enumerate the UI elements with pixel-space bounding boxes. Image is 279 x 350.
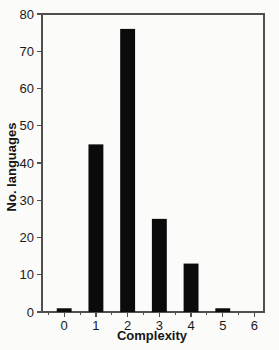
- bar: [184, 264, 199, 312]
- y-tick-label: 70: [20, 44, 34, 59]
- y-tick-label: 60: [20, 81, 34, 96]
- y-tick-label: 30: [20, 193, 34, 208]
- x-tick-label: 6: [251, 318, 258, 333]
- bar: [57, 308, 72, 312]
- y-tick-label: 40: [20, 156, 34, 171]
- x-axis-title: Complexity: [117, 328, 187, 343]
- x-tick-label: 1: [92, 318, 99, 333]
- bar: [88, 144, 103, 312]
- y-tick-label: 10: [20, 267, 34, 282]
- y-axis-title: No. languages: [4, 123, 19, 212]
- bar-chart-canvas: 010203040506070800123456: [0, 0, 279, 350]
- x-tick-label: 5: [219, 318, 226, 333]
- y-tick-label: 80: [20, 7, 34, 22]
- y-tick-label: 20: [20, 230, 34, 245]
- bar: [152, 219, 167, 312]
- bar: [215, 308, 230, 312]
- y-tick-label: 50: [20, 118, 34, 133]
- bar-chart-figure: 010203040506070800123456 No. languages C…: [0, 0, 279, 350]
- y-tick-label: 0: [27, 305, 34, 320]
- x-tick-label: 0: [61, 318, 68, 333]
- x-tick-label: 4: [187, 318, 194, 333]
- bar: [120, 29, 135, 312]
